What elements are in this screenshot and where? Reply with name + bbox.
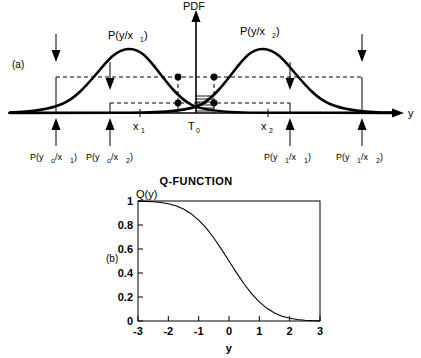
down-arrow-p-y0-x1 [52,34,61,62]
panel-b-x-tick-0: -3 [133,325,143,337]
annotation-p-y0-x1-mid: /x [55,152,63,162]
panel-b-x-tick-1: -2 [163,325,173,337]
pdf-curve-2-label-group: P(y/x 2 ) [240,25,280,39]
annotation-p-y0-x2-base: P(y [86,152,100,162]
tick-label-T0-group: T 0 [188,120,200,134]
panel-b-x-tick-2: -1 [194,325,204,337]
tick-label-T0-sub: 0 [196,127,200,134]
marker-dot-lower-left [175,100,182,107]
tick-label-x2: x [261,120,267,132]
panel-b-y-tick-0: 0 [127,315,133,327]
annotation-p-y0-x2-mid: /x [111,152,119,162]
panel-b-y-tick-3: 0.6 [118,243,133,255]
annotation-p-y1-x2-mid: /x [361,152,369,162]
annotation-p-y0-x1: P(y o /x 1 ) [30,152,77,164]
tick-label-x1-sub: 1 [141,127,145,134]
panel-b-y-tick-5: 1 [127,195,133,207]
panel-b-x-axis-label: y [226,342,233,354]
panel-b-x-tick-3: 0 [226,325,232,337]
marker-dot-lower-right [211,100,218,107]
up-arrow-p-y0-x1 [52,118,61,146]
annotation-p-y0-x2: P(y o /x 2 ) [86,152,133,164]
panel-b-x-tick-4: 1 [256,325,262,337]
technical-figure: y PDF (a) P(y/x 1 ) P(y/x 2 [0,0,421,358]
up-arrow-p-y1-x2 [358,118,367,146]
annotation-p-y1-x2: P(y 1 /x 2 ) [336,152,383,164]
annotation-p-y1-x1-base: P(y [264,152,278,162]
panel-b-y-axis-label: Q(y) [136,188,157,200]
down-arrow-p-y1-x1 [286,62,295,90]
panel-a-y-axis-label: PDF [183,0,205,12]
panel-b-title: Q-FUNCTION [159,175,232,187]
pdf-curve-1-label-group: P(y/x 1 ) [108,29,148,43]
annotation-p-y0-x1-base: P(y [30,152,44,162]
panel-b-y-tick-2: 0.4 [118,267,134,279]
up-arrow-p-y1-x1 [286,118,295,146]
tick-label-x1-group: x 1 [133,120,145,134]
panel-b-x-tick-6: 3 [317,325,323,337]
panel-b-y-ticks [138,201,143,321]
pdf-curve-2-label-close: ) [276,25,280,37]
panel-b-y-tick-4: 0.8 [118,219,133,231]
pdf-curve-1-label-close: ) [144,29,148,41]
tick-label-x2-group: x 2 [261,120,273,134]
panel-a-x-axis-label: y [408,107,414,119]
panel-b-y-tick-1: 0.2 [118,291,133,303]
pdf-curve-1-label: P(y/x [108,29,134,41]
marker-dot-upper-left [175,74,182,81]
panel-a-tag: (a) [12,59,24,70]
annotation-p-y1-x2-base: P(y [336,152,350,162]
annotation-p-y1-x1: P(y 1 /x 1 ) [264,152,311,164]
marker-dot-upper-right [211,74,218,81]
pdf-curve-2-label: P(y/x [240,25,266,37]
q-function-curve [138,201,320,321]
pdf-curve-2 [10,49,392,113]
annotation-p-y0-x1-close: ) [74,152,77,162]
down-arrow-p-y0-x2 [106,62,115,90]
tick-label-T0: T [188,120,195,132]
tick-label-x2-sub: 2 [269,127,273,134]
panel-b-tag: (b) [106,253,118,264]
down-arrow-p-y1-x2 [358,34,367,62]
annotation-p-y1-x2-close: ) [380,152,383,162]
panel-a-x-axis-arrowhead [392,109,404,118]
annotation-p-y0-x2-close: ) [130,152,133,162]
annotation-p-y1-x1-close: ) [308,152,311,162]
up-arrow-p-y0-x2 [106,118,115,146]
tick-label-x1: x [133,120,139,132]
panel-b-x-tick-5: 2 [287,325,293,337]
annotation-p-y1-x1-mid: /x [289,152,297,162]
